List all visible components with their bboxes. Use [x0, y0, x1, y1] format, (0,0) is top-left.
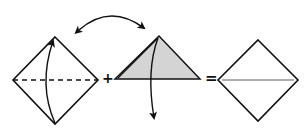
square-base-diamond — [13, 37, 98, 124]
diagram-svg — [0, 0, 306, 131]
folded-triangle — [115, 36, 200, 118]
equals-operator: = — [205, 69, 218, 87]
origami-diagram: + = — [0, 0, 306, 131]
plus-operator: + — [102, 70, 114, 86]
result-square-diamond — [218, 40, 298, 121]
swap-double-arrow-icon — [79, 16, 144, 30]
